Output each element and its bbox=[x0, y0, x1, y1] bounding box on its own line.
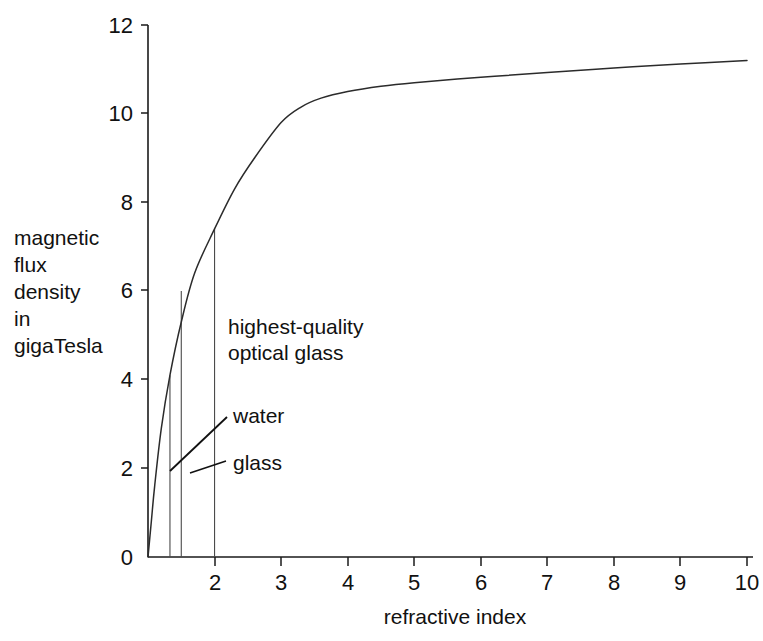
y-tick-label-6: 6 bbox=[121, 278, 133, 303]
y-axis-ticks bbox=[141, 25, 148, 468]
y-tick-label-10: 10 bbox=[109, 101, 133, 126]
x-tick-label-7: 7 bbox=[541, 570, 553, 595]
x-tick-label-2: 2 bbox=[209, 570, 221, 595]
data-curve bbox=[148, 60, 747, 557]
x-axis-title: refractive index bbox=[384, 605, 527, 628]
leader-line-glass bbox=[190, 461, 226, 473]
annotation-glass: glass bbox=[233, 451, 282, 474]
y-axis-title-line-1: magnetic bbox=[14, 226, 99, 249]
y-tick-label-0: 0 bbox=[121, 545, 133, 570]
y-tick-label-4: 4 bbox=[121, 367, 133, 392]
y-axis-title-line-5: gigaTesla bbox=[14, 334, 103, 357]
y-axis-title-line-2: flux bbox=[14, 253, 47, 276]
y-tick-label-12: 12 bbox=[109, 13, 133, 38]
chart-figure: 12 10 8 6 4 2 0 2 3 4 5 6 7 8 9 10 refra… bbox=[0, 0, 763, 641]
annotation-water: water bbox=[232, 404, 284, 427]
x-tick-label-8: 8 bbox=[608, 570, 620, 595]
x-tick-label-4: 4 bbox=[342, 570, 354, 595]
x-tick-label-10: 10 bbox=[735, 570, 759, 595]
y-tick-label-8: 8 bbox=[121, 190, 133, 215]
y-axis-title-line-4: in bbox=[14, 307, 30, 330]
x-tick-label-3: 3 bbox=[275, 570, 287, 595]
y-axis-title: magnetic flux density in gigaTesla bbox=[14, 226, 103, 357]
y-tick-label-2: 2 bbox=[121, 456, 133, 481]
x-tick-label-6: 6 bbox=[475, 570, 487, 595]
x-tick-label-9: 9 bbox=[674, 570, 686, 595]
annotation-optical-glass-line-1: highest-quality bbox=[228, 315, 364, 338]
chart-canvas: 12 10 8 6 4 2 0 2 3 4 5 6 7 8 9 10 refra… bbox=[0, 0, 763, 641]
x-axis-ticks bbox=[215, 557, 747, 566]
annotation-optical-glass-line-2: optical glass bbox=[228, 341, 344, 364]
y-axis-title-line-3: density bbox=[14, 280, 81, 303]
x-tick-label-5: 5 bbox=[408, 570, 420, 595]
